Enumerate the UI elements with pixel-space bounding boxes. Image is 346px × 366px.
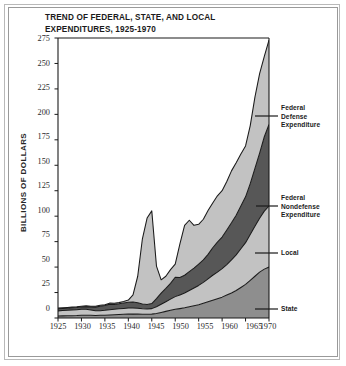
annotation-state-label: State xyxy=(281,305,298,314)
annotation-federal-defense: Federal Defense Expenditure xyxy=(281,104,320,130)
y-tick-label: 250 xyxy=(24,59,50,68)
annotation-federal-nondefense-line1: Federal xyxy=(281,194,320,203)
y-tick-label: 175 xyxy=(24,132,50,141)
x-tick-label: 1970 xyxy=(255,322,281,331)
y-tick-label: 0 xyxy=(24,304,50,313)
annotation-federal-defense-line1: Federal xyxy=(281,104,320,113)
annotation-federal-defense-line2: Defense xyxy=(281,113,320,122)
chart-title-line2: EXPENDITURES, 1925-1970 xyxy=(45,24,275,36)
x-tick-label: 1945 xyxy=(143,322,169,331)
y-tick-label: 75 xyxy=(24,230,50,239)
x-tick-label: 1925 xyxy=(45,322,71,331)
x-tick-label: 1930 xyxy=(70,322,96,331)
x-tick-label: 1950 xyxy=(168,322,194,331)
annotation-federal-nondefense-line3: Expenditure xyxy=(281,211,320,220)
annotation-local-label: Local xyxy=(281,249,299,258)
y-tick-label: 125 xyxy=(24,181,50,190)
annotation-federal-nondefense-line2: Nondefense xyxy=(281,203,320,212)
chart-figure: TREND OF FEDERAL, STATE, AND LOCAL EXPEN… xyxy=(0,0,346,366)
x-tick-label: 1940 xyxy=(119,322,145,331)
chart-title-line1: TREND OF FEDERAL, STATE, AND LOCAL xyxy=(45,12,275,24)
annotation-state: State xyxy=(281,305,298,314)
y-tick-label: 25 xyxy=(24,279,50,288)
annotation-federal-defense-line3: Expenditure xyxy=(281,121,320,130)
y-tick-label: 225 xyxy=(24,83,50,92)
y-tick-label: 100 xyxy=(24,206,50,215)
annotation-local: Local xyxy=(281,249,299,258)
x-tick-label: 1935 xyxy=(94,322,120,331)
y-tick-label: 275 xyxy=(24,34,50,43)
annotation-federal-nondefense: Federal Nondefense Expenditure xyxy=(281,194,320,220)
x-tick-label: 1955 xyxy=(192,322,218,331)
y-tick-label: 200 xyxy=(24,108,50,117)
x-tick-label: 1960 xyxy=(217,322,243,331)
chart-title: TREND OF FEDERAL, STATE, AND LOCAL EXPEN… xyxy=(45,12,275,35)
y-tick-label: 150 xyxy=(24,157,50,166)
y-tick-label: 50 xyxy=(24,255,50,264)
